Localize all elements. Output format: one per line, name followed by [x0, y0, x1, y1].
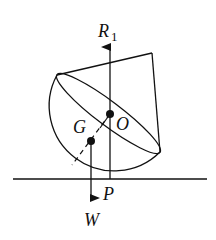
label-p: P	[102, 184, 114, 204]
label-w: W	[84, 210, 101, 230]
point-o-dot	[106, 110, 114, 118]
cone-edge-top	[57, 53, 152, 75]
label-r-subscript: 1	[111, 29, 118, 44]
label-r: R	[97, 21, 109, 41]
label-g: G	[73, 117, 86, 137]
diagram-canvas: R 1 O G P W	[0, 0, 216, 240]
label-o: O	[116, 114, 129, 134]
hemisphere-arc	[49, 75, 160, 171]
point-g-dot	[87, 137, 95, 145]
